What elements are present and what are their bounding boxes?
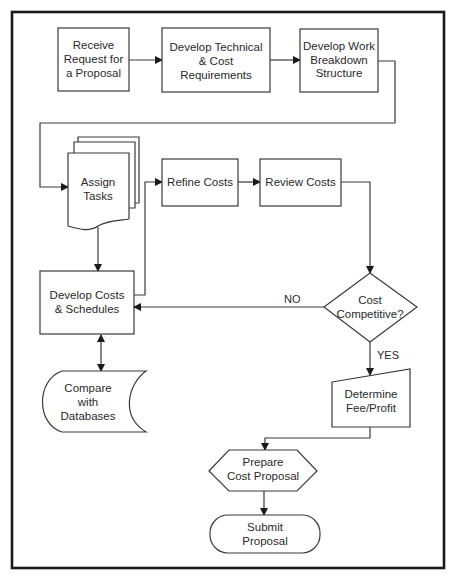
node-develop-technical: Develop Technical & Cost Requirements — [162, 28, 270, 92]
node-prepare-cost-proposal: Prepare Cost Proposal — [209, 450, 317, 491]
node-refine-costs: Refine Costs — [162, 159, 238, 206]
edge-label-no: NO — [284, 293, 301, 305]
svg-text:Request for: Request for — [64, 53, 124, 65]
node-work-breakdown: Develop Work Breakdown Structure — [300, 29, 378, 92]
svg-text:Competitive?: Competitive? — [336, 308, 403, 320]
node-determine-fee: Determine Fee/Profit — [332, 369, 410, 427]
node-submit-proposal: Submit Proposal — [210, 515, 320, 553]
svg-text:Determine: Determine — [344, 388, 397, 400]
svg-text:Submit: Submit — [247, 521, 284, 533]
svg-text:Prepare: Prepare — [243, 456, 284, 468]
svg-text:Cost: Cost — [358, 294, 382, 306]
edge-fee-to-prepare — [265, 427, 370, 450]
svg-text:Develop Technical: Develop Technical — [169, 41, 262, 53]
node-develop-costs: Develop Costs & Schedules — [40, 271, 134, 334]
node-assign-tasks: Assign Tasks — [68, 137, 139, 230]
svg-text:Cost Proposal: Cost Proposal — [227, 470, 299, 482]
flowchart-canvas: Receive Request for a Proposal Develop T… — [0, 0, 453, 579]
edge-label-yes: YES — [377, 349, 399, 361]
svg-text:Refine Costs: Refine Costs — [167, 176, 233, 188]
svg-text:Develop Work: Develop Work — [303, 40, 375, 52]
svg-text:Tasks: Tasks — [83, 190, 113, 202]
svg-text:Compare: Compare — [64, 382, 111, 394]
node-receive-request: Receive Request for a Proposal — [58, 28, 129, 91]
svg-text:Review Costs: Review Costs — [265, 176, 336, 188]
node-review-costs: Review Costs — [260, 159, 341, 206]
svg-text:Breakdown: Breakdown — [310, 54, 368, 66]
svg-text:Proposal: Proposal — [242, 535, 287, 547]
svg-text:& Schedules: & Schedules — [55, 303, 120, 315]
svg-text:with: with — [77, 396, 98, 408]
svg-text:Receive: Receive — [73, 39, 115, 51]
svg-text:Structure: Structure — [316, 67, 363, 79]
svg-text:Requirements: Requirements — [180, 69, 252, 81]
svg-text:Assign: Assign — [81, 176, 116, 188]
svg-text:Fee/Profit: Fee/Profit — [346, 402, 397, 414]
edge-review-to-decision — [341, 182, 370, 273]
svg-text:& Cost: & Cost — [199, 55, 234, 67]
node-compare-databases: Compare with Databases — [43, 371, 147, 432]
svg-text:Develop Costs: Develop Costs — [50, 289, 125, 301]
svg-text:Databases: Databases — [61, 410, 116, 422]
node-cost-competitive-decision: Cost Competitive? — [324, 273, 417, 342]
svg-text:a Proposal: a Proposal — [66, 67, 121, 79]
